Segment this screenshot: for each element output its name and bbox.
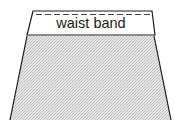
skirt-diagram: waist band — [0, 0, 181, 137]
waist-band-label: waist band — [55, 15, 125, 31]
waist-band: waist band — [27, 11, 155, 35]
skirt-body — [10, 36, 171, 120]
